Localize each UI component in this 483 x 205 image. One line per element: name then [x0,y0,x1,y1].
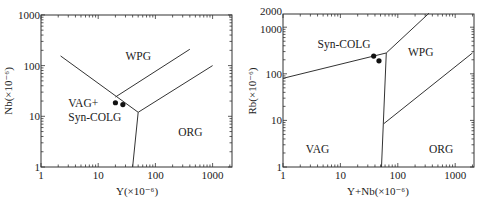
y-tick-label: 100 [24,60,41,72]
field-label-syn-colg: Syn-COLG [318,38,371,51]
x-axis-title: Y(×10⁻⁶) [116,185,158,198]
field-boundary-line [283,53,386,78]
plot-frame [41,15,232,167]
y-tick-label: 1 [35,161,41,173]
x-tick-label: 1000 [202,169,225,181]
field-label-line: Syn-COLG [68,111,121,124]
x-tick-label: 100 [147,169,164,181]
field-boundary-line [384,53,473,124]
y-tick-label: 1 [277,161,283,173]
x-axis-title: Y+Nb(×10⁻⁶) [347,185,409,198]
y-axis-title: Rb(×10⁻⁶) [246,67,259,114]
field-label-org: ORG [178,126,202,138]
x-tick-label: 10 [335,169,347,181]
x-tick-label: 10 [93,169,105,181]
x-tick-label: 100 [390,169,407,181]
y-tick-label: 1000 [260,23,283,35]
field-label-wpg: WPG [408,46,434,58]
field-label-org: ORG [429,143,453,155]
field-boundary-line [138,66,212,113]
y-tick-label: 10 [29,110,41,122]
y-tick-label: 1000 [18,9,41,21]
sample-point [376,58,381,63]
y-tick-label: 10 [271,114,283,126]
rb-ynb-discrimination-plot: 110100100011010010002000Y+Nb(×10⁻⁶)Rb(×1… [246,5,474,198]
field-label-vag: VAG [306,143,329,155]
sample-point [371,53,376,58]
nb-y-discrimination-plot: 11010010001101001000Y(×10⁻⁶)Nb(×10⁻⁶)WPG… [2,9,232,198]
field-boundary-line [133,112,139,167]
y-axis-title: Nb(×10⁻⁶) [2,67,15,115]
x-tick-label: 1000 [444,169,467,181]
figure: 11010010001101001000Y(×10⁻⁶)Nb(×10⁻⁶)WPG… [0,0,483,205]
y-tick-label: 2000 [260,5,283,17]
field-boundary-line [381,53,386,167]
sample-point [113,100,118,105]
field-label-wpg: WPG [125,50,151,62]
y-tick-label: 100 [266,68,283,80]
field-label-line: VAG+ [68,97,98,109]
sample-point [120,102,125,107]
